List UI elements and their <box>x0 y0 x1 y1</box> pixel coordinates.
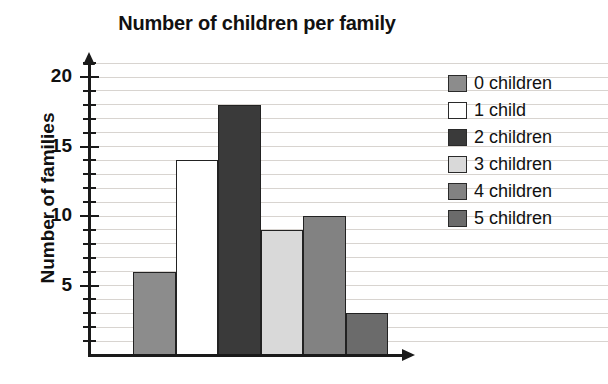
bar <box>176 160 219 355</box>
legend-label: 4 children <box>474 181 552 202</box>
legend-label: 0 children <box>474 73 552 94</box>
legend-item: 1 child <box>448 97 608 124</box>
chart-figure: Number of children per family Number of … <box>0 0 608 384</box>
chart-legend: 0 children1 child2 children3 children4 c… <box>448 70 608 232</box>
bar <box>133 272 176 355</box>
legend-label: 5 children <box>474 208 552 229</box>
x-axis-arrow-icon <box>402 349 415 361</box>
legend-swatch-icon <box>448 75 467 92</box>
y-tick-label: 10 <box>28 204 72 226</box>
y-axis-arrow-icon <box>83 52 95 65</box>
y-tick-label: 20 <box>28 65 72 87</box>
gridline <box>90 63 608 64</box>
x-axis-line <box>88 354 405 357</box>
legend-swatch-icon <box>448 102 467 119</box>
legend-label: 2 children <box>474 127 552 148</box>
y-tick-label: 15 <box>28 135 72 157</box>
y-tick-label: 5 <box>28 274 72 296</box>
legend-swatch-icon <box>448 210 467 227</box>
legend-label: 3 children <box>474 154 552 175</box>
legend-swatch-icon <box>448 156 467 173</box>
legend-swatch-icon <box>448 183 467 200</box>
bar <box>261 230 304 355</box>
legend-item: 5 children <box>448 205 608 232</box>
legend-item: 0 children <box>448 70 608 97</box>
legend-item: 3 children <box>448 151 608 178</box>
legend-item: 4 children <box>448 178 608 205</box>
legend-label: 1 child <box>474 100 526 121</box>
bar <box>346 313 389 355</box>
bar <box>218 105 261 355</box>
bar <box>303 216 346 355</box>
y-axis-line <box>88 62 91 357</box>
gridline <box>90 243 608 244</box>
legend-item: 2 children <box>448 124 608 151</box>
legend-swatch-icon <box>448 129 467 146</box>
gridline <box>90 257 608 258</box>
